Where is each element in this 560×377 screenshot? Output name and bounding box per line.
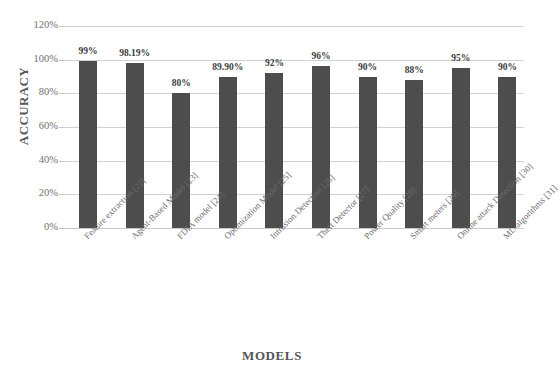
bar bbox=[359, 77, 377, 229]
bar bbox=[405, 80, 423, 228]
bar bbox=[126, 63, 144, 228]
y-axis-tick-mark bbox=[59, 26, 64, 27]
y-axis-tick-mark bbox=[59, 60, 64, 61]
bar bbox=[265, 73, 283, 228]
y-axis-tick-label: 60% bbox=[12, 120, 58, 131]
y-axis-tick-label: 20% bbox=[12, 187, 58, 198]
bar bbox=[498, 77, 516, 229]
y-axis-tick-mark bbox=[59, 93, 64, 94]
y-axis-tick-label: 0% bbox=[12, 221, 58, 232]
bar-value-label: 80% bbox=[151, 78, 211, 88]
y-axis-title: ACCURACY bbox=[16, 46, 32, 166]
y-axis-tick-label: 120% bbox=[12, 19, 58, 30]
bar bbox=[172, 93, 190, 228]
bar-value-label: 90% bbox=[477, 62, 537, 72]
y-axis-tick-label: 100% bbox=[12, 53, 58, 64]
bar-value-label: 96% bbox=[291, 51, 351, 61]
bar-value-label: 88% bbox=[384, 65, 444, 75]
bar bbox=[452, 68, 470, 228]
y-axis-tick-mark bbox=[59, 161, 64, 162]
y-axis-tick-mark bbox=[59, 127, 64, 128]
y-axis-tick-mark bbox=[59, 194, 64, 195]
y-axis-tick-label: 40% bbox=[12, 154, 58, 165]
bar bbox=[312, 66, 330, 228]
y-axis-tick-mark bbox=[59, 228, 64, 229]
bar bbox=[79, 61, 97, 228]
gridline bbox=[64, 26, 524, 27]
x-axis-title: MODELS bbox=[0, 348, 544, 364]
bar-value-label: 98.19% bbox=[105, 48, 165, 58]
y-axis-tick-label: 80% bbox=[12, 86, 58, 97]
bar bbox=[219, 77, 237, 228]
